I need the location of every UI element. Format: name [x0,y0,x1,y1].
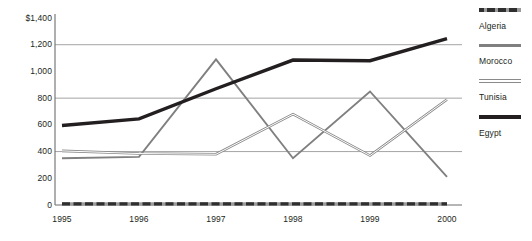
legend-swatch-egypt-icon [479,115,521,119]
x-tick-label-1996: 1996 [129,215,148,224]
x-tick-label-1999: 1999 [360,215,379,224]
legend-label-egypt: Egypt [479,128,501,138]
legend-label-algeria: Algeria [479,21,506,31]
x-tick-label-1997: 1997 [206,215,225,224]
x-tick-label-1998: 1998 [283,215,302,224]
legend-item-tunisia[interactable]: Tunisia [479,79,532,104]
x-tick-label-2000: 2000 [437,215,456,224]
legend-swatch-tunisia-icon [479,79,521,83]
legend-item-egypt[interactable]: Egypt [479,115,532,140]
legend-label-morocco: Morocco [479,56,512,66]
line-chart: 02004006008001,0001,200$1,400 1995199619… [0,0,532,241]
legend-label-tunisia: Tunisia [479,92,507,102]
legend-swatch-algeria-icon [479,8,521,12]
legend-item-morocco[interactable]: Morocco [479,44,532,68]
x-axis-tick-labels: 199519961997199819992000 [0,0,470,241]
legend-swatch-morocco-icon [479,44,521,47]
chart-legend: Algeria Morocco Tunisia Egypt [479,8,532,151]
legend-item-algeria[interactable]: Algeria [479,8,532,33]
x-tick-label-1995: 1995 [52,215,71,224]
